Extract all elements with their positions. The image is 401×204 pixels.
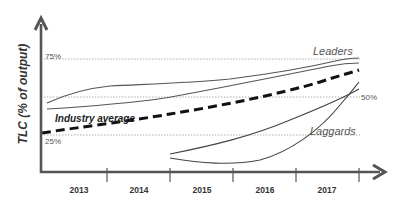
y-tick-50: 50% [361,93,377,102]
y-axis-label: TLC (% of output) [16,24,32,164]
x-tick-2016: 2016 [245,185,285,195]
x-tick-2014: 2014 [119,185,159,195]
laggards-lower-line [170,82,359,163]
laggards-upper-line [170,89,359,154]
x-axis-ticks [107,168,359,182]
x-tick-2013: 2013 [59,185,99,195]
y-tick-75: 75% [45,52,61,61]
industry-average-label: Industry average [55,113,135,124]
x-tick-2017: 2017 [307,185,347,195]
laggards-label: Laggards [310,125,356,137]
y-tick-25: 25% [45,137,61,146]
x-tick-2015: 2015 [182,185,222,195]
chart-canvas [0,0,401,204]
leaders-lower-line [47,63,359,109]
leaders-upper-line [47,58,359,103]
leaders-label: Leaders [313,45,353,57]
